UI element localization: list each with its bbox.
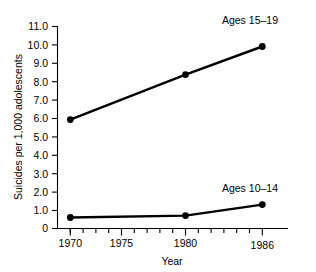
y-tick-label-7: 7.0 (33, 94, 48, 106)
x-axis-title: Year (161, 255, 183, 267)
data-point (259, 43, 266, 50)
data-point (259, 201, 266, 208)
y-tick-label-6: 6.0 (33, 112, 48, 124)
x-tick-label-1970: 1970 (59, 237, 83, 249)
x-tick-label-1980: 1980 (174, 237, 198, 249)
y-tick-label-2: 2.0 (33, 186, 48, 198)
y-axis-title: Suicides per 1,000 adolescents (12, 54, 24, 200)
y-tick-label-3: 3.0 (33, 168, 48, 180)
data-point (67, 116, 74, 123)
y-tick-label-1: 1.0 (33, 204, 48, 216)
series-label-ages-10-14: Ages 10–14 (222, 182, 278, 194)
data-point (182, 71, 189, 78)
y-tick-label-5: 5.0 (33, 131, 48, 143)
data-point (67, 214, 74, 221)
y-tick-label-4: 4.0 (33, 149, 48, 161)
y-tick-label-9: 9.0 (33, 57, 48, 69)
y-tick-label-10: 10.0 (28, 39, 49, 51)
x-tick-label-1986: 1986 (251, 239, 275, 251)
x-tick-label-1975: 1975 (110, 237, 134, 249)
y-tick-label-8: 8.0 (33, 76, 48, 88)
y-tick-label-0: 0 (42, 222, 48, 234)
chart-container: 11.0 10.0 9.0 8.0 7.0 6.0 5.0 4.0 3.0 2.… (0, 0, 316, 272)
series-label-ages-15-19: Ages 15–19 (222, 14, 278, 26)
data-point (182, 212, 189, 219)
y-tick-label-11: 11.0 (28, 20, 48, 32)
line-chart: 11.0 10.0 9.0 8.0 7.0 6.0 5.0 4.0 3.0 2.… (0, 0, 316, 272)
